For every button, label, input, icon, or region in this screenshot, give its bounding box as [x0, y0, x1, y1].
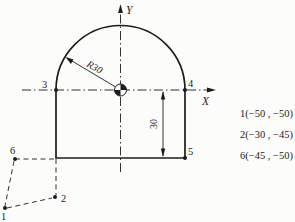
x-axis-label: X — [201, 95, 210, 107]
point-label-5: 5 — [188, 146, 193, 157]
radius-label: R30 — [84, 58, 104, 76]
engineering-drawing: X Y R30 30 3 — [0, 0, 295, 222]
y-axis-arrow-icon — [118, 4, 123, 13]
point-dot-6 — [13, 157, 17, 161]
point-label-1: 1 — [1, 211, 6, 222]
dimension-label: 30 — [148, 119, 159, 129]
coordinate-line-1: 1(−50 , −50) — [240, 108, 293, 120]
point-label-6: 6 — [10, 145, 15, 156]
dimension-arrow-up-icon — [161, 91, 165, 100]
point-label-3: 3 — [42, 79, 47, 90]
radius-arrow-icon — [66, 57, 74, 64]
origin-centroid-icon — [115, 84, 127, 96]
point-label-2: 2 — [61, 193, 66, 204]
point-dot-5 — [183, 156, 187, 160]
point-dot-2 — [53, 195, 57, 199]
coordinate-line-2: 2(−30 , −45) — [240, 129, 293, 141]
dashed-line-1-to-2 — [7, 198, 52, 208]
diagram-canvas: X Y R30 30 3 — [0, 0, 295, 222]
x-axis-arrow-icon — [207, 88, 216, 93]
y-axis-label: Y — [126, 4, 134, 16]
dimension-arrow-down-icon — [161, 149, 165, 158]
coordinate-line-3: 6(−45 , −50) — [240, 150, 293, 162]
dashed-line-6-to-1 — [5, 161, 14, 206]
point-dot-3 — [54, 88, 58, 92]
point-dot-4 — [183, 88, 187, 92]
point-dot-1 — [3, 206, 7, 210]
point-label-4: 4 — [188, 78, 194, 89]
